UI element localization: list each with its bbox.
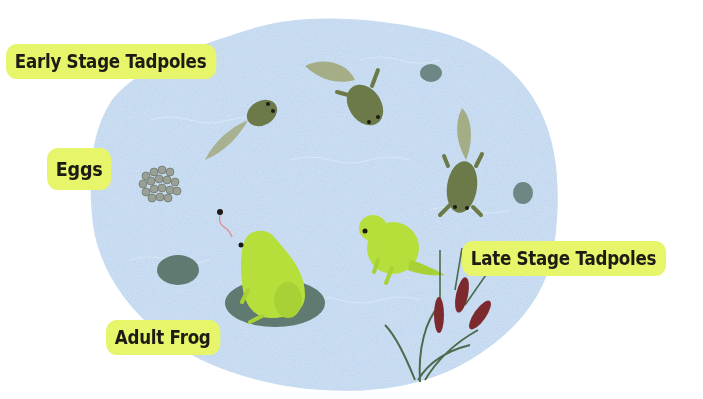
- label-early-stage-tadpoles: Early Stage Tadpoles: [6, 44, 216, 79]
- lily-pad-small-1: [420, 64, 442, 82]
- label-adult-frog: Adult Frog: [106, 320, 220, 355]
- lily-pad-small-2: [513, 182, 533, 204]
- label-eggs: Eggs: [47, 148, 111, 190]
- lily-pad-small-3: [157, 255, 199, 285]
- label-late-stage-tadpoles: Late Stage Tadpoles: [462, 241, 666, 276]
